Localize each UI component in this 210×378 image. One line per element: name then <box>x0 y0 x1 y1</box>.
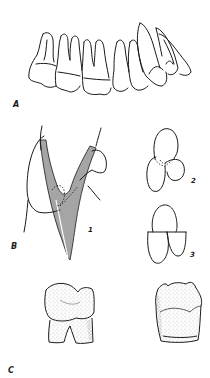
c-right-molar <box>156 282 202 342</box>
dental-figure: A 1 B 2 3 <box>0 0 210 378</box>
c-left-molar <box>45 283 94 343</box>
panel-c-molars <box>0 0 210 378</box>
panel-label-c: C <box>8 367 14 375</box>
